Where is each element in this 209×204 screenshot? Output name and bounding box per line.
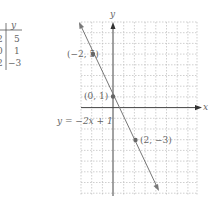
x-axis-label: x bbox=[203, 102, 208, 112]
equation-label: y = −2x + 1 bbox=[56, 116, 113, 126]
value-table: y 2 0 2 5 1 −3 bbox=[0, 20, 22, 70]
chart: y x (−2, 5) (0, 1) (2, −3) y = −2x + 1 y… bbox=[0, 0, 209, 204]
grid bbox=[81, 22, 197, 195]
svg-text:1: 1 bbox=[14, 46, 20, 56]
line-arrow-bottom-icon bbox=[154, 184, 160, 191]
x-axis-arrow-icon bbox=[195, 105, 202, 110]
svg-text:5: 5 bbox=[14, 34, 20, 44]
svg-text:2: 2 bbox=[0, 34, 3, 44]
svg-text:y: y bbox=[10, 20, 17, 30]
svg-text:−3: −3 bbox=[8, 58, 22, 68]
y-axis-arrow-icon bbox=[111, 22, 116, 29]
svg-text:2: 2 bbox=[0, 58, 3, 68]
point-2-neg3 bbox=[133, 138, 137, 142]
y-axis-label: y bbox=[109, 9, 116, 19]
line-arrow-top-icon bbox=[79, 22, 84, 29]
point-label-1: (−2, 5) bbox=[67, 49, 99, 59]
point-0-1 bbox=[111, 94, 115, 98]
point-label-3: (2, −3) bbox=[140, 135, 172, 145]
svg-text:0: 0 bbox=[0, 46, 3, 56]
point-label-2: (0, 1) bbox=[84, 91, 108, 101]
